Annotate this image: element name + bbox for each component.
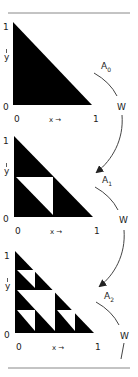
map-arrow-1-to-2 <box>100 230 124 286</box>
x-axis-label: x → <box>50 228 62 236</box>
x-tick-left: 0 <box>16 342 22 352</box>
x-tick-left: 0 <box>15 226 21 236</box>
set-label-a0: A0 <box>101 61 111 73</box>
set-arc-a2 <box>96 302 119 325</box>
set-label-a2: A2 <box>104 291 114 303</box>
map-label-w: W <box>117 102 126 112</box>
panel-a2: 1 y 0 0 x → 1 A2 W <box>4 251 129 359</box>
map-arrow-0-to-1 <box>97 115 122 172</box>
y-axis-label: y <box>5 281 11 291</box>
y-tick-bottom: 0 <box>3 102 9 112</box>
triangle-a1 <box>14 136 93 217</box>
x-tick-right: 1 <box>95 342 101 352</box>
y-axis-label: y <box>4 52 10 62</box>
x-tick-right: 1 <box>94 226 100 236</box>
x-axis-label: x → <box>52 344 64 352</box>
y-tick-top: 1 <box>3 22 9 32</box>
triangle-a0 <box>13 22 92 105</box>
x-axis-label: x → <box>49 116 61 124</box>
y-axis-label: y <box>4 166 10 176</box>
y-tick-bottom: 0 <box>4 330 10 340</box>
set-arc-a1 <box>95 187 118 210</box>
x-tick-right: 1 <box>93 114 99 124</box>
y-tick-top: 1 <box>3 136 9 146</box>
map-arrow-2-continuation <box>121 343 124 359</box>
y-tick-bottom: 0 <box>3 214 9 224</box>
x-tick-left: 0 <box>14 114 20 124</box>
sierpinski-iteration-diagram: 1 y 0 0 x → 1 A0 W 1 y 0 0 x → 1 A1 W 1 … <box>0 0 138 377</box>
y-tick-top: 1 <box>4 251 10 261</box>
map-label-w: W <box>120 331 129 341</box>
set-arc-a0 <box>94 73 117 96</box>
set-label-a1: A1 <box>102 175 112 187</box>
map-label-w: W <box>119 215 128 225</box>
